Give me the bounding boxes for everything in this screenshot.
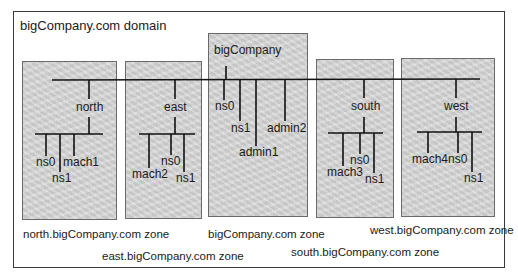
host-label-root-ns0: ns0: [215, 100, 234, 113]
host-label-west-mach4: mach4: [412, 153, 448, 166]
backbone-line: [52, 79, 480, 80]
zone-caption-west: west.bigCompany.com zone: [370, 224, 514, 236]
hub-label-north: north: [76, 101, 103, 114]
host-label-west-ns1: ns1: [464, 172, 483, 185]
host-label-north-mach1: mach1: [63, 156, 99, 169]
host-label-east-mach2: mach2: [132, 168, 168, 181]
host-label-root-ns1: ns1: [231, 122, 250, 135]
host-label-south-ns1: ns1: [365, 173, 384, 186]
zone-caption-north: north.bigCompany.com zone: [23, 228, 169, 240]
host-label-east-ns0: ns0: [161, 155, 180, 168]
hub-label-bigcompany: bigCompany: [214, 44, 281, 57]
host-label-north-ns0: ns0: [36, 156, 55, 169]
host-label-north-ns1: ns1: [52, 172, 71, 185]
hub-label-west: west: [444, 100, 469, 113]
zone-caption-east: east.bigCompany.com zone: [102, 250, 244, 262]
host-label-south-mach3: mach3: [327, 166, 363, 179]
hub-label-south: south: [351, 100, 380, 113]
zone-caption-south: south.bigCompany.com zone: [291, 246, 439, 258]
host-label-east-ns1: ns1: [176, 172, 195, 185]
host-label-root-admin1: admin1: [239, 146, 278, 159]
zone-caption-root: bigCompany.com zone: [208, 228, 325, 240]
host-label-south-ns0: ns0: [350, 154, 369, 167]
host-label-west-ns0: ns0: [448, 153, 467, 166]
hub-label-east: east: [164, 101, 187, 114]
host-label-root-admin2: admin2: [267, 122, 306, 135]
